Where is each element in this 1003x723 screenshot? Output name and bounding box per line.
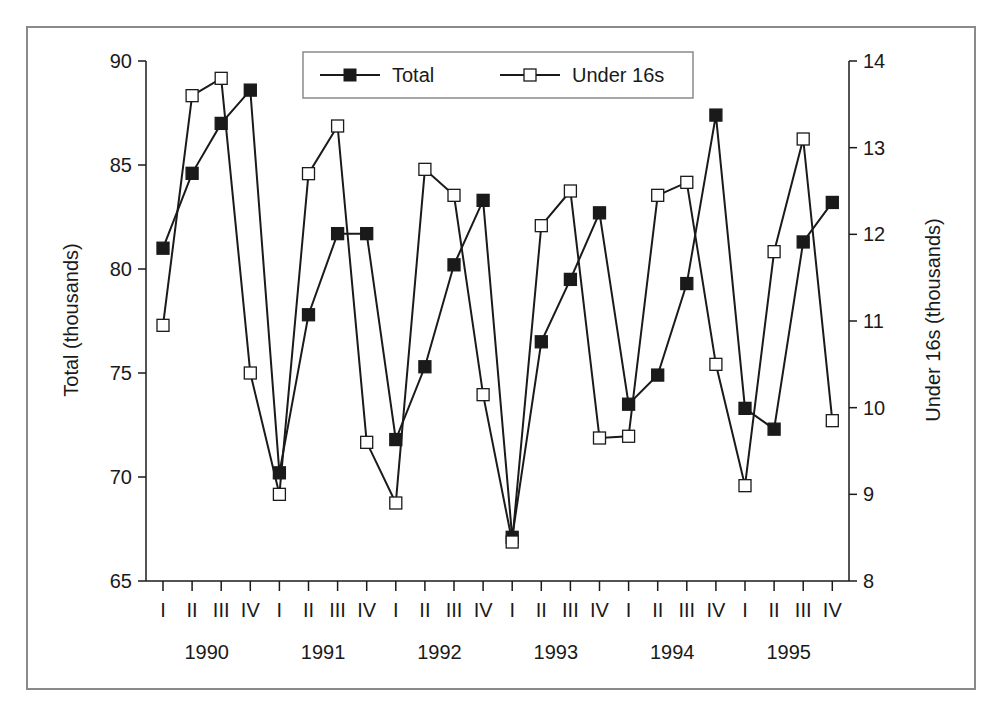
under16-marker-icon xyxy=(332,120,344,132)
total-marker-icon xyxy=(273,467,285,479)
legend-label-under16: Under 16s xyxy=(572,64,664,86)
series-lines xyxy=(157,72,838,548)
x-tick-label-quarter: II xyxy=(303,599,314,621)
x-tick-label-quarter: II xyxy=(769,599,780,621)
x-tick-label-quarter: III xyxy=(795,599,812,621)
x-year-label: 1995 xyxy=(766,641,811,663)
total-marker-icon xyxy=(332,228,344,240)
total-marker-icon xyxy=(797,236,809,248)
under16-marker-icon xyxy=(535,220,547,232)
x-tick-label-quarter: I xyxy=(160,599,166,621)
total-marker-icon xyxy=(448,259,460,271)
total-marker-icon xyxy=(681,278,693,290)
under16-marker-icon xyxy=(244,367,256,379)
x-tick-label-quarter: III xyxy=(562,599,579,621)
x-tick-label-quarter: IV xyxy=(590,599,610,621)
y-tick-label-right: 10 xyxy=(863,397,885,419)
under16-marker-icon xyxy=(710,358,722,370)
y-tick-label-left: 65 xyxy=(110,570,132,592)
under16-marker-icon xyxy=(564,185,576,197)
legend-under16-marker-icon xyxy=(524,69,536,81)
y-tick-label-right: 13 xyxy=(863,137,885,159)
total-marker-icon xyxy=(623,398,635,410)
y-tick-label-left: 70 xyxy=(110,466,132,488)
x-tick-label-quarter: I xyxy=(277,599,283,621)
x-tick-label-quarter: III xyxy=(678,599,695,621)
under16-marker-icon xyxy=(390,497,402,509)
y-tick-label-right: 9 xyxy=(863,483,874,505)
under16-marker-icon xyxy=(448,189,460,201)
y-tick-label-left: 80 xyxy=(110,258,132,280)
under16-marker-icon xyxy=(506,536,518,548)
x-tick-label-quarter: III xyxy=(329,599,346,621)
total-marker-icon xyxy=(768,423,780,435)
total-marker-icon xyxy=(419,361,431,373)
y-tick-label-left: 75 xyxy=(110,362,132,384)
x-tick-label-quarter: IV xyxy=(241,599,261,621)
total-marker-icon xyxy=(477,194,489,206)
under16-marker-icon xyxy=(186,90,198,102)
under16-marker-icon xyxy=(157,319,169,331)
y-tick-label-left: 90 xyxy=(110,50,132,72)
x-tick-label-quarter: II xyxy=(419,599,430,621)
under16-marker-icon xyxy=(768,246,780,258)
under16-marker-icon xyxy=(215,72,227,84)
x-tick-label-quarter: I xyxy=(626,599,632,621)
legend: Total Under 16s xyxy=(303,52,693,98)
legend-total-marker-icon xyxy=(344,69,356,81)
x-year-label: 1990 xyxy=(184,641,229,663)
total-marker-icon xyxy=(303,309,315,321)
total-marker-icon xyxy=(244,84,256,96)
under16-marker-icon xyxy=(361,436,373,448)
x-tick-label-quarter: IV xyxy=(474,599,494,621)
total-marker-icon xyxy=(594,207,606,219)
x-tick-label-quarter: IV xyxy=(823,599,843,621)
x-tick-label-quarter: II xyxy=(652,599,663,621)
under16-marker-icon xyxy=(681,176,693,188)
total-marker-icon xyxy=(361,228,373,240)
x-tick-label-quarter: II xyxy=(536,599,547,621)
under16-marker-icon xyxy=(594,432,606,444)
total-marker-icon xyxy=(826,196,838,208)
x-tick-label-quarter: III xyxy=(213,599,230,621)
total-marker-icon xyxy=(710,109,722,121)
x-tick-label-quarter: IV xyxy=(357,599,377,621)
series-under16-line xyxy=(163,78,832,542)
total-marker-icon xyxy=(564,273,576,285)
x-year-label: 1991 xyxy=(301,641,346,663)
line-chart: 657075808590891011121314IIIIIIIVIIIIIIIV… xyxy=(0,0,1003,723)
x-year-label: 1993 xyxy=(534,641,579,663)
total-marker-icon xyxy=(215,117,227,129)
under16-marker-icon xyxy=(477,389,489,401)
x-tick-label-quarter: II xyxy=(187,599,198,621)
total-marker-icon xyxy=(186,167,198,179)
total-marker-icon xyxy=(535,336,547,348)
y-tick-label-left: 85 xyxy=(110,154,132,176)
total-marker-icon xyxy=(739,402,751,414)
x-tick-label-quarter: I xyxy=(393,599,399,621)
total-marker-icon xyxy=(652,369,664,381)
x-year-label: 1994 xyxy=(650,641,695,663)
total-marker-icon xyxy=(157,242,169,254)
x-year-label: 1992 xyxy=(417,641,462,663)
under16-marker-icon xyxy=(273,488,285,500)
total-marker-icon xyxy=(390,434,402,446)
x-tick-label-quarter: III xyxy=(446,599,463,621)
under16-marker-icon xyxy=(826,415,838,427)
y-tick-label-right: 12 xyxy=(863,223,885,245)
y-axis-left-title: Total (thousands) xyxy=(60,243,82,396)
legend-label-total: Total xyxy=(392,64,434,86)
y-tick-label-right: 14 xyxy=(863,50,885,72)
under16-marker-icon xyxy=(739,480,751,492)
under16-marker-icon xyxy=(419,163,431,175)
under16-marker-icon xyxy=(303,168,315,180)
y-axis-right-title: Under 16s (thousands) xyxy=(922,218,944,421)
under16-marker-icon xyxy=(797,133,809,145)
y-tick-label-right: 11 xyxy=(863,310,884,332)
x-tick-label-quarter: I xyxy=(509,599,515,621)
under16-marker-icon xyxy=(652,189,664,201)
y-tick-label-right: 8 xyxy=(863,570,874,592)
x-tick-label-quarter: IV xyxy=(706,599,726,621)
under16-marker-icon xyxy=(623,430,635,442)
x-tick-label-quarter: I xyxy=(742,599,748,621)
